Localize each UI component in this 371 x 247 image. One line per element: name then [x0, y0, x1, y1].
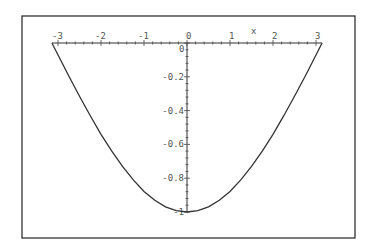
- y-tick-label: -0.6: [162, 139, 184, 149]
- origin-label: 0: [179, 44, 184, 54]
- x-tick-label: 2: [272, 31, 277, 41]
- x-axis-ticks: -3-2-10123: [52, 31, 320, 46]
- x-tick-label: -3: [52, 31, 63, 41]
- y-tick-label: -0.8: [162, 173, 184, 183]
- x-tick-label: 3: [315, 31, 320, 41]
- y-tick-label: -0.4: [162, 106, 184, 116]
- y-axis-ticks: -0.2-0.4-0.6-0.8-1: [162, 43, 190, 217]
- axes: -3-2-10123 -0.2-0.4-0.6-0.8-1: [52, 31, 322, 217]
- x-axis-label: x: [251, 26, 257, 36]
- x-tick-label: -2: [95, 31, 106, 41]
- x-tick-label: 1: [229, 31, 234, 41]
- y-tick-label: -0.2: [162, 72, 184, 82]
- x-tick-label: 0: [186, 31, 191, 41]
- x-tick-label: -1: [138, 31, 149, 41]
- plot-frame: [22, 16, 355, 238]
- plot-canvas: -3-2-10123 -0.2-0.4-0.6-0.8-1 x 0: [0, 0, 371, 247]
